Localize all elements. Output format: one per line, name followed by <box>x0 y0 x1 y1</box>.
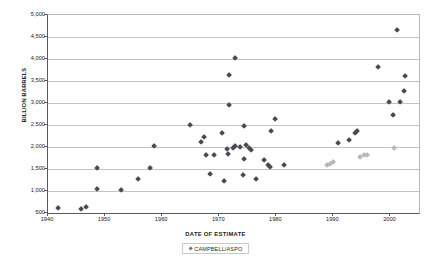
y-tick-mark <box>44 58 47 59</box>
gridline-horizontal <box>48 191 419 192</box>
y-tick-mark <box>44 80 47 81</box>
y-tick-mark <box>44 124 47 125</box>
y-tick-label: 3,500 <box>5 77 45 83</box>
x-tick-mark <box>104 213 105 216</box>
y-tick-label: 4,500 <box>5 33 45 39</box>
x-tick-mark <box>47 213 48 216</box>
gridline-horizontal <box>48 169 419 170</box>
y-tick-mark <box>44 190 47 191</box>
x-tick-label: 1950 <box>84 216 124 222</box>
y-tick-label: 500 <box>5 209 45 215</box>
y-tick-label: 5,000 <box>5 11 45 17</box>
gridline-horizontal <box>48 103 419 104</box>
x-axis-title: DATE OF ESTIMATE <box>0 231 431 237</box>
x-tick-label: 2000 <box>369 216 409 222</box>
y-tick-label: 2,500 <box>5 121 45 127</box>
x-tick-mark <box>389 213 390 216</box>
y-tick-label: 1,000 <box>5 187 45 193</box>
gridline-horizontal <box>48 37 419 38</box>
x-tick-label: 1980 <box>255 216 295 222</box>
x-tick-mark <box>161 213 162 216</box>
scatter-chart-figure: BILLION BARRELS 5001,0001,5002,0002,5003… <box>0 0 431 265</box>
x-tick-mark <box>218 213 219 216</box>
y-tick-label: 4,000 <box>5 55 45 61</box>
x-tick-label: 1960 <box>141 216 181 222</box>
y-tick-label: 3,000 <box>5 99 45 105</box>
x-tick-label: 1990 <box>312 216 352 222</box>
y-tick-mark <box>44 146 47 147</box>
legend-marker-icon <box>188 246 193 251</box>
y-tick-mark <box>44 36 47 37</box>
x-tick-label: 1940 <box>27 216 67 222</box>
y-tick-mark <box>44 14 47 15</box>
x-tick-mark <box>275 213 276 216</box>
gridline-horizontal <box>48 125 419 126</box>
x-tick-label: 1970 <box>198 216 238 222</box>
y-tick-label: 2,000 <box>5 143 45 149</box>
y-tick-mark <box>44 102 47 103</box>
plot-area <box>47 14 420 214</box>
chart-legend: CAMPBELL/ASPO <box>182 243 250 254</box>
legend-label: CAMPBELL/ASPO <box>194 246 242 252</box>
y-tick-mark <box>44 168 47 169</box>
y-axis-title: BILLION BARRELS <box>21 35 27 155</box>
gridline-horizontal <box>48 81 419 82</box>
x-tick-mark <box>332 213 333 216</box>
y-tick-label: 1,500 <box>5 165 45 171</box>
